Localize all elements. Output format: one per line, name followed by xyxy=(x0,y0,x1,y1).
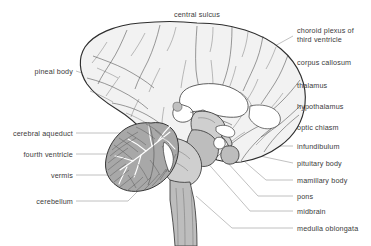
label-fourth-ventricle: fourth ventricle xyxy=(23,150,73,159)
label-infundibulum: infundibulum xyxy=(297,142,340,151)
label-central-sulcus: central sulcus xyxy=(174,10,220,19)
label-corpus-callosum: corpus callosum xyxy=(297,58,351,67)
label-optic-chiasm: optic chiasm xyxy=(297,123,339,132)
leader-medulla-oblongata xyxy=(196,196,293,228)
label-cerebellum: cerebellum xyxy=(36,197,73,206)
label-thalamus: thalamus xyxy=(297,81,328,90)
label-midbrain: midbrain xyxy=(297,207,326,216)
label-pineal-body: pineal body xyxy=(35,67,74,76)
label-vermis: vermis xyxy=(51,171,73,180)
pineal-body-gland xyxy=(173,102,182,111)
label-pons: pons xyxy=(297,192,313,201)
label-medulla-oblongata: medulla oblongata xyxy=(297,224,358,233)
leader-midbrain xyxy=(205,160,293,211)
label-cerebral-aqueduct: cerebral aqueduct xyxy=(13,129,73,138)
label-pituitary-body: pituitary body xyxy=(297,159,342,168)
label-choroid-plexus-line2: third ventricle xyxy=(297,35,342,44)
label-mamillary-body: mamillary body xyxy=(297,176,348,185)
label-choroid-plexus-line1: choroid plexus of xyxy=(297,26,354,35)
pituitary-body-gland xyxy=(221,146,239,164)
brain-anatomy-diagram: central sulcus choroid plexus of third v… xyxy=(0,0,371,246)
label-hypothalamus: hypothalamus xyxy=(297,102,344,111)
